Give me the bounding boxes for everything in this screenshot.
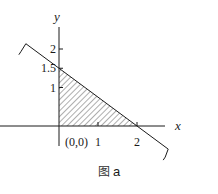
y-tick-label: 1.5: [41, 61, 56, 75]
caption-glyph: 图: [98, 165, 110, 179]
boundary-line: [26, 44, 168, 149]
y-tick-label: 2: [50, 42, 56, 56]
origin-label: (0,0): [65, 135, 88, 149]
boundary-arrow-hook-right: [163, 149, 168, 160]
x-axis-label: x: [174, 118, 181, 133]
caption-label: a: [113, 164, 120, 179]
x-tick-label: 2: [134, 135, 140, 149]
boundary-arrow-hook-left: [19, 44, 26, 55]
y-axis-label: y: [52, 9, 60, 24]
figure-caption: 图a: [0, 162, 218, 179]
x-tick-label: 1: [95, 135, 101, 149]
y-tick-label: 1: [50, 81, 56, 95]
